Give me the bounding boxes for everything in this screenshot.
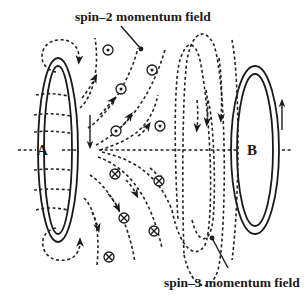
label-pointers	[121, 26, 228, 268]
spin2-pointer-line	[121, 26, 141, 49]
dot-circle-icon	[155, 121, 165, 131]
spin-field-diagram: spin–2 momentum field spin–3 momentum fi…	[0, 0, 306, 299]
cross-circle-icon	[104, 252, 114, 262]
cross-circle-icon	[154, 176, 164, 186]
cross-circle-icon	[110, 169, 120, 179]
dot-circle-icon	[116, 84, 126, 94]
spin3-pointer-dot-icon	[210, 236, 215, 241]
cross-circle-icon	[149, 226, 159, 236]
coil-b-label: B	[247, 143, 257, 158]
cross-circle-icon	[119, 213, 129, 223]
out-of-page-symbols	[103, 45, 165, 136]
spin3-field-lines	[172, 34, 238, 286]
dot-circle-icon	[111, 126, 121, 136]
dot-circle-icon	[147, 65, 157, 75]
spin3-field-label: spin–3 momentum field	[164, 276, 300, 290]
spin2-field-label: spin–2 momentum field	[75, 10, 211, 24]
coil-a-label: A	[37, 143, 48, 158]
dot-circle-icon	[103, 45, 113, 55]
spin2-pointer-dot-icon	[139, 47, 144, 52]
